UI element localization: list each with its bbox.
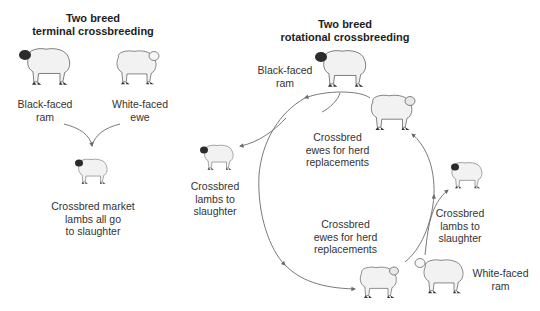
crossbred-lamb-icon-left: [200, 145, 233, 169]
white-faced-ram-icon: [415, 259, 463, 294]
crossbred-ewe-icon-upper: [371, 95, 415, 130]
arrow-to-left-lambs: [240, 118, 286, 146]
rotational-sire-bottom-label: White-facedram: [468, 267, 533, 292]
crossbred-lamb-icon: [75, 159, 107, 183]
crossbred-ewe-icon-lower: [360, 267, 398, 298]
arrow-circle-bottom: [285, 265, 355, 289]
arrow-ram-to-circle: [322, 93, 340, 112]
arrow-ram-to-lambs: [64, 124, 92, 146]
black-faced-ram-icon: [19, 49, 70, 85]
terminal-dam-label: White-facedewe: [105, 98, 175, 123]
terminal-sire-label: Black-facedram: [10, 98, 80, 123]
terminal-offspring-label: Crossbred marketlambs all goto slaughter: [43, 200, 143, 238]
white-faced-ewe-icon: [117, 51, 159, 84]
rotational-lambs-left-label: Crossbredlambs toslaughter: [185, 180, 245, 218]
arrow-circle-left: [259, 98, 305, 265]
diagram-arrows: [0, 0, 540, 311]
rotational-ewes-upper-label: Crossbredewes for herdreplacements: [300, 131, 375, 169]
arrow-ewe-to-lambs: [92, 124, 120, 146]
arrow-upper-ewe-to-circle: [305, 92, 370, 98]
arrow-circle-right-top: [412, 134, 434, 195]
terminal-title: Two breedterminal crossbreeding: [28, 12, 158, 38]
crossbred-lamb-icon-right: [451, 163, 482, 189]
black-faced-ram-icon-rotational: [315, 51, 366, 87]
rotational-lambs-right-label: Crossbredlambs toslaughter: [430, 207, 490, 245]
rotational-ewes-lower-label: Crossbredewes for herdreplacements: [308, 218, 383, 256]
rotational-sire-top-label: Black-facedram: [255, 64, 315, 89]
rotational-title: Two breedrotational crossbreeding: [280, 18, 410, 44]
